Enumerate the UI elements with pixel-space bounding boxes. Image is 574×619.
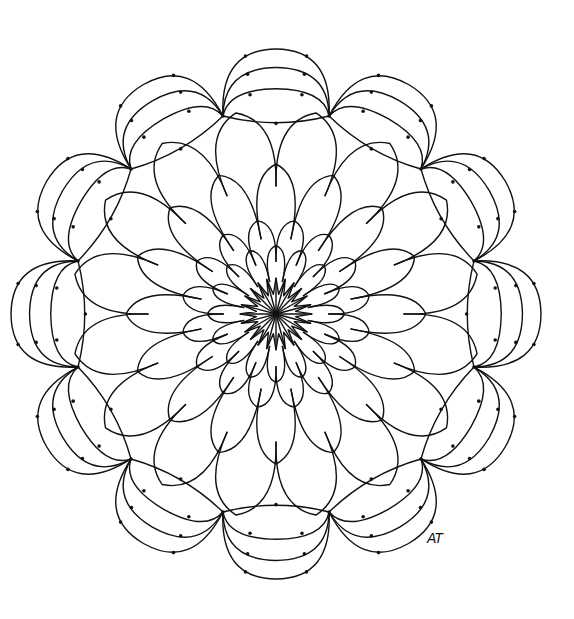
mandala-drawing <box>0 0 574 619</box>
artist-signature: AT <box>427 530 442 546</box>
